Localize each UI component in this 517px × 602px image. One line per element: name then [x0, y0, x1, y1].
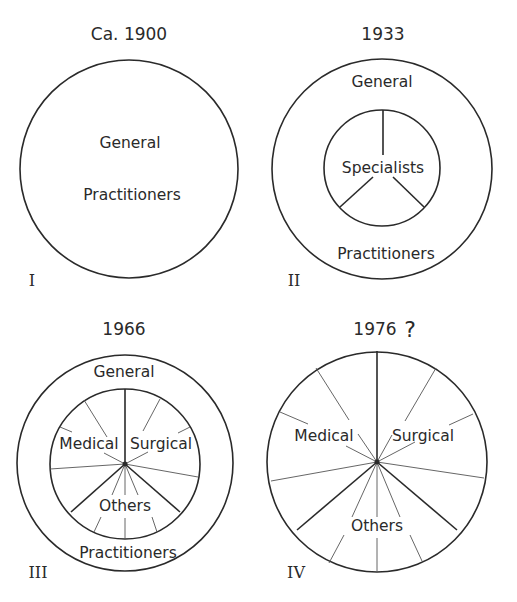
label-others: Others — [351, 517, 403, 535]
label-practitioners: Practitioners — [83, 186, 181, 204]
label-practitioners: Practitioners — [79, 544, 177, 562]
panel-year: 1976 — [353, 319, 396, 339]
label-medical: Medical — [59, 435, 118, 453]
panel-1900: Ca. 1900 General Practitioners I — [20, 24, 238, 290]
label-others: Others — [99, 497, 151, 515]
panel-numeral: IV — [287, 563, 305, 582]
panel-numeral: III — [29, 563, 48, 582]
center-dot — [123, 462, 128, 467]
divider-line — [393, 177, 424, 207]
label-general: General — [99, 134, 160, 152]
label-surgical: Surgical — [392, 427, 454, 445]
panel-year: 1933 — [361, 24, 404, 44]
medical-specialization-diagram: Ca. 1900 General Practitioners I 1933 Ge… — [0, 0, 517, 602]
label-surgical: Surgical — [130, 435, 192, 453]
label-medical: Medical — [294, 427, 353, 445]
panel-year: 1966 — [102, 319, 145, 339]
label-general: General — [351, 73, 412, 91]
panel-numeral: II — [288, 271, 301, 290]
question-mark: ? — [404, 317, 416, 342]
panel-year: Ca. 1900 — [91, 24, 167, 44]
divider-line — [340, 177, 373, 207]
panel-1933: 1933 General Specialists Practitioners I… — [272, 24, 492, 290]
label-practitioners: Practitioners — [337, 245, 435, 263]
label-general: General — [93, 363, 154, 381]
panel-1976: 1976 ? Medi — [267, 317, 487, 582]
panel-numeral: I — [29, 271, 35, 290]
center-dot — [375, 460, 380, 465]
label-specialists: Specialists — [342, 159, 424, 177]
general-practitioners-circle — [20, 60, 238, 278]
panel-1966: 1966 General Medical — [17, 319, 233, 582]
